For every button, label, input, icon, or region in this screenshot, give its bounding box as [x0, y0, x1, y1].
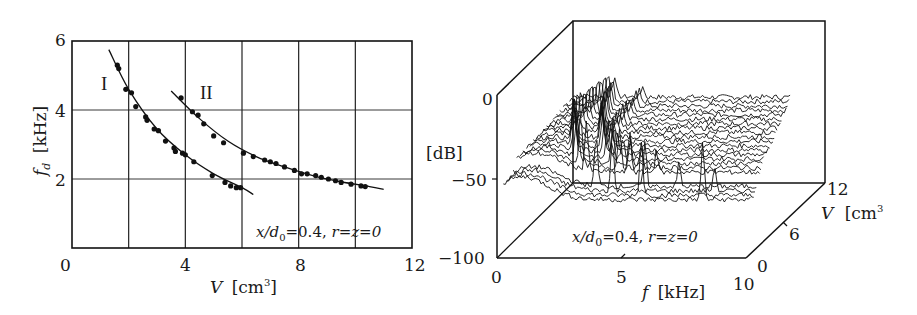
- data-point: [123, 87, 128, 92]
- v-tick-6: 6: [789, 224, 800, 244]
- data-point: [251, 154, 256, 159]
- data-point: [319, 175, 324, 180]
- v-axis: [746, 183, 825, 258]
- f-axis-label: f [kHz]: [640, 282, 705, 302]
- data-point: [144, 118, 149, 123]
- f-tick-10: 10: [733, 274, 755, 294]
- condition-annotation-3d: x/d0=0.4, r=z=0: [572, 228, 698, 249]
- spectrum-trace: [547, 93, 776, 135]
- data-point: [183, 152, 188, 157]
- data-point: [292, 168, 297, 173]
- data-point: [195, 113, 200, 118]
- y-axis-label: fd [kHz]: [30, 106, 54, 178]
- data-point: [129, 90, 134, 95]
- x-tick-12: 12: [404, 255, 426, 275]
- right-chart-labels: 0 −50 −100 [dB] 0 5 10 f [kHz] 0 6 12 V …: [426, 89, 883, 302]
- data-point: [326, 176, 331, 181]
- data-point: [299, 171, 304, 176]
- data-point: [363, 184, 368, 189]
- data-point: [313, 173, 318, 178]
- x-tick-0: 0: [60, 255, 71, 275]
- fit-curve-II: [171, 91, 383, 189]
- data-point: [273, 161, 278, 166]
- data-point: [210, 173, 215, 178]
- top-left-slant-edge: [497, 21, 573, 95]
- data-point: [241, 151, 246, 156]
- data-point: [348, 182, 353, 187]
- z-axis-label: [dB]: [426, 143, 463, 163]
- data-point: [191, 159, 196, 164]
- data-point: [156, 128, 161, 133]
- curve-label-II: II: [200, 82, 213, 103]
- y-tick-6: 6: [55, 30, 66, 50]
- data-point: [333, 178, 338, 183]
- data-point: [163, 138, 168, 143]
- data-point: [178, 95, 183, 100]
- grid: [72, 41, 412, 248]
- f-tick-5: 5: [616, 267, 627, 287]
- z-tick-minus100: −100: [438, 248, 485, 268]
- data-point: [262, 157, 267, 162]
- v-tick-12: 12: [827, 179, 849, 199]
- spectrum-trace: [503, 143, 750, 202]
- y-tick-4: 4: [55, 101, 66, 121]
- x-tick-4: 4: [180, 255, 191, 275]
- fit-curves: [109, 50, 384, 195]
- curve-label-I: I: [101, 73, 107, 94]
- data-point: [133, 104, 138, 109]
- z-tick-minus50: −50: [451, 170, 487, 190]
- y-tick-2: 2: [55, 170, 66, 190]
- v-tick-6: [783, 222, 787, 226]
- data-point: [222, 180, 227, 185]
- data-point: [116, 66, 121, 71]
- v-tick-0: 0: [757, 256, 768, 276]
- x-tick-8: 8: [295, 255, 306, 275]
- data-points: [115, 63, 368, 191]
- data-point: [228, 183, 233, 188]
- data-point: [190, 109, 195, 114]
- data-point: [238, 185, 243, 190]
- x-axis-label: V [cm3]: [210, 277, 277, 297]
- v-axis-label: V [cm3: [821, 203, 883, 223]
- condition-annotation: x/d0=0.4, r=z=0: [256, 223, 382, 243]
- data-point: [339, 180, 344, 185]
- data-point: [305, 171, 310, 176]
- figure: 0 4 8 12 2 4 6 V [cm3] fd [kHz] I II x/d…: [0, 0, 917, 315]
- data-point: [211, 133, 216, 138]
- data-point: [268, 159, 273, 164]
- right-chart: [492, 21, 825, 258]
- data-point: [282, 164, 287, 169]
- data-point: [221, 140, 226, 145]
- left-chart: 0 4 8 12 2 4 6 V [cm3] fd [kHz] I II x/d…: [30, 30, 426, 297]
- z-tick-0: 0: [482, 89, 493, 109]
- data-point: [173, 149, 178, 154]
- f-tick-0: 0: [491, 267, 502, 287]
- fit-curve-I: [109, 50, 254, 195]
- data-point: [201, 121, 206, 126]
